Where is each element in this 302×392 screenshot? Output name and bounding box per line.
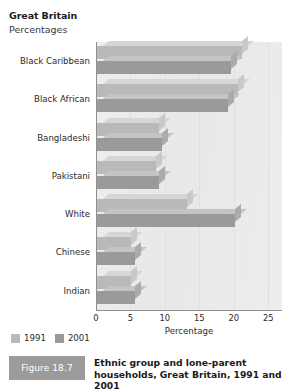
bar-front-face — [97, 61, 231, 74]
bar-group: Pakistani — [0, 157, 302, 195]
bar-side-face — [242, 36, 248, 54]
legend-swatch-2001 — [55, 334, 64, 343]
bar-2001[interactable] — [97, 176, 159, 189]
x-tick-label-0: 0 — [84, 313, 108, 323]
bar-side-face — [135, 242, 141, 260]
figure-number-badge: Figure 18.7 — [9, 356, 85, 380]
bar-2001[interactable] — [97, 99, 228, 112]
x-tick-label-25: 25 — [256, 313, 280, 323]
legend-label-1991: 1991 — [24, 334, 46, 343]
chart-legend: 19912001 — [11, 334, 90, 343]
bar-front-face — [97, 291, 135, 304]
legend-label-2001: 2001 — [68, 334, 90, 343]
bar-front-face — [97, 99, 228, 112]
bar-2001[interactable] — [97, 138, 162, 151]
bar-side-face — [159, 166, 165, 184]
x-axis-line — [96, 310, 282, 311]
bar-side-face — [238, 74, 244, 92]
bar-front-face — [97, 138, 162, 151]
bar-side-face — [131, 266, 137, 284]
bar-side-face — [187, 189, 193, 207]
bar-side-face — [235, 204, 241, 222]
x-tick-label-15: 15 — [187, 313, 211, 323]
category-label: Pakistani — [0, 171, 90, 181]
bar-group: Indian — [0, 272, 302, 310]
bar-group: White — [0, 195, 302, 233]
bar-front-face — [97, 176, 159, 189]
figure-caption: Figure 18.7 Ethnic group and lone-parent… — [9, 356, 297, 392]
category-label: Black Caribbean — [0, 56, 90, 66]
bar-side-face — [131, 227, 137, 245]
bar-group: Chinese — [0, 233, 302, 271]
x-tick-label-10: 10 — [153, 313, 177, 323]
bar-2001[interactable] — [97, 61, 231, 74]
category-label: Black African — [0, 94, 90, 104]
legend-item-1991[interactable]: 1991 — [11, 334, 46, 343]
bar-group: Bangladeshi — [0, 119, 302, 157]
legend-item-2001[interactable]: 2001 — [55, 334, 90, 343]
bar-front-face — [97, 214, 235, 227]
category-label: White — [0, 209, 90, 219]
bar-side-face — [135, 281, 141, 299]
bar-chart: Black CaribbeanBlack AfricanBangladeshiP… — [0, 30, 302, 315]
bar-side-face — [228, 89, 234, 107]
bar-2001[interactable] — [97, 291, 135, 304]
x-tick-label-20: 20 — [222, 313, 246, 323]
legend-swatch-1991 — [11, 334, 20, 343]
bar-front-face — [97, 252, 135, 265]
category-label: Indian — [0, 286, 90, 296]
category-label: Chinese — [0, 247, 90, 257]
bar-group: Black Caribbean — [0, 42, 302, 80]
figure-caption-text: Ethnic group and lone-parent households,… — [94, 356, 297, 392]
bar-side-face — [231, 51, 237, 69]
bar-group: Black African — [0, 80, 302, 118]
x-axis-label: Percentage — [96, 326, 282, 336]
bar-2001[interactable] — [97, 252, 135, 265]
region-title: Great Britain — [9, 9, 189, 22]
x-tick-label-5: 5 — [118, 313, 142, 323]
bar-side-face — [162, 128, 168, 146]
category-label: Bangladeshi — [0, 133, 90, 143]
bar-2001[interactable] — [97, 214, 235, 227]
